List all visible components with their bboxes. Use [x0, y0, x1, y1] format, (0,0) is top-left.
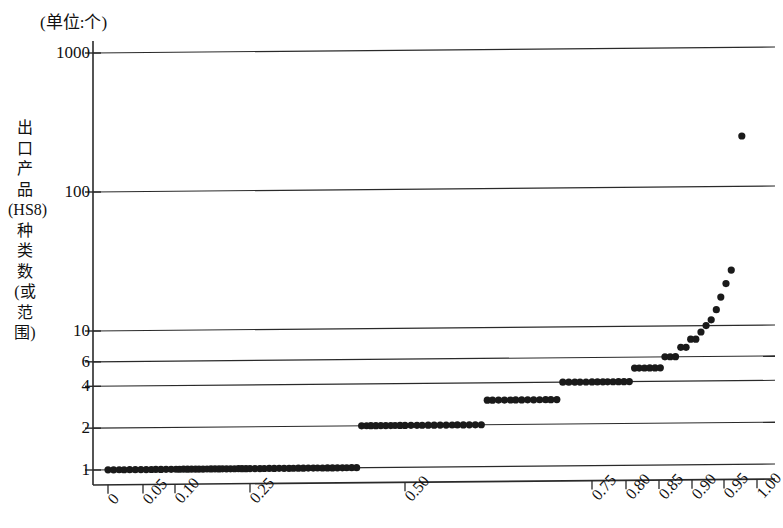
y-tick-label: 10	[73, 322, 90, 339]
data-point	[738, 132, 745, 139]
data-point	[353, 464, 360, 471]
data-point	[722, 280, 729, 287]
gridline-y-100	[93, 186, 775, 192]
y-tick-label: 1000	[56, 44, 90, 61]
gridline-y-4	[93, 380, 775, 386]
data-series	[104, 132, 745, 473]
y-tick-label: 4	[82, 377, 91, 394]
data-point	[657, 364, 664, 371]
data-point	[553, 396, 560, 403]
data-point	[692, 336, 699, 343]
gridline-y-10	[93, 325, 775, 331]
plot-area	[0, 0, 783, 528]
data-point	[626, 378, 633, 385]
y-tick-label: 2	[82, 419, 91, 436]
data-point	[728, 266, 735, 273]
data-point	[478, 421, 485, 428]
gridline-y-1000	[93, 47, 775, 53]
y-tick-label: 100	[65, 183, 91, 200]
data-point	[682, 344, 689, 351]
data-point	[713, 306, 720, 313]
chart-root: (单位:个) 出 口 产 品 (HS8) 种 类 数 (或 范 围) 10001…	[0, 0, 783, 528]
y-tick-label: 6	[82, 353, 91, 370]
data-point	[697, 328, 704, 335]
data-point	[717, 294, 724, 301]
data-point	[672, 353, 679, 360]
y-tick-label: 1	[82, 461, 91, 478]
data-point	[708, 316, 715, 323]
data-point	[702, 322, 709, 329]
